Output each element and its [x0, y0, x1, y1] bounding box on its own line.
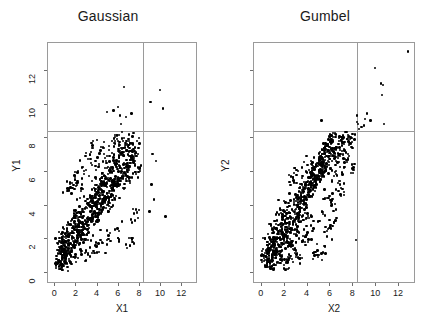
- data-point: [327, 149, 329, 151]
- data-point: [383, 123, 385, 125]
- data-point: [303, 161, 305, 163]
- data-point: [298, 237, 300, 239]
- data-point: [326, 235, 328, 237]
- data-point: [96, 221, 98, 223]
- data-point: [134, 219, 136, 221]
- data-point: [329, 168, 331, 170]
- data-point: [275, 252, 277, 254]
- data-point: [321, 210, 323, 212]
- data-point: [105, 207, 107, 209]
- data-point: [130, 112, 132, 114]
- data-point: [94, 215, 96, 217]
- data-point: [110, 206, 112, 208]
- data-point: [266, 252, 268, 254]
- data-point: [381, 94, 383, 96]
- data-point: [123, 187, 125, 189]
- data-point: [79, 197, 81, 199]
- data-point: [382, 84, 384, 86]
- data-point: [299, 254, 301, 256]
- data-point: [323, 231, 325, 233]
- data-point: [97, 186, 99, 188]
- data-point: [79, 159, 81, 161]
- data-point: [94, 160, 96, 162]
- data-point: [70, 192, 72, 194]
- data-point: [125, 180, 127, 182]
- data-point: [118, 238, 120, 240]
- data-point: [324, 214, 326, 216]
- data-point: [299, 207, 301, 209]
- data-point: [108, 149, 110, 151]
- data-point: [292, 179, 294, 181]
- data-point: [109, 202, 111, 204]
- data-point: [332, 150, 334, 152]
- data-point: [331, 147, 333, 149]
- x-tick-label: 2: [274, 288, 294, 298]
- data-point: [91, 164, 93, 166]
- x-tick-label: 0: [44, 288, 64, 298]
- data-point: [313, 254, 315, 256]
- data-point: [106, 243, 108, 245]
- data-point: [338, 161, 340, 163]
- data-point: [102, 207, 104, 209]
- data-point: [335, 208, 337, 210]
- data-point: [113, 145, 115, 147]
- data-point: [103, 141, 105, 143]
- data-point: [326, 230, 328, 232]
- data-point: [139, 167, 141, 169]
- data-point: [78, 242, 80, 244]
- data-point: [121, 151, 123, 153]
- panel-gumbel: Gumbel Y2 024681012024681012 X2: [217, 0, 433, 328]
- data-point: [407, 50, 409, 52]
- data-point: [67, 270, 69, 272]
- data-point: [297, 170, 299, 172]
- data-point: [137, 171, 139, 173]
- data-point: [310, 214, 312, 216]
- data-point: [102, 198, 104, 200]
- data-point: [270, 224, 272, 226]
- data-point: [337, 157, 339, 159]
- data-point: [304, 241, 306, 243]
- data-point: [310, 175, 312, 177]
- data-point: [333, 157, 335, 159]
- data-point: [102, 190, 104, 192]
- data-point: [82, 211, 84, 213]
- data-point: [306, 164, 308, 166]
- data-point: [337, 190, 339, 192]
- data-point: [272, 231, 274, 233]
- data-point: [313, 156, 315, 158]
- data-point: [321, 148, 323, 150]
- data-point: [112, 109, 114, 111]
- x-tick-mark: [75, 283, 76, 286]
- data-point: [366, 112, 368, 114]
- x-axis-label-left: X1: [47, 303, 197, 314]
- data-point: [327, 172, 329, 174]
- data-point: [89, 158, 91, 160]
- data-point: [84, 207, 86, 209]
- data-point: [98, 163, 100, 165]
- data-point: [81, 177, 83, 179]
- data-point: [95, 203, 97, 205]
- data-point: [121, 220, 123, 222]
- data-point: [108, 155, 110, 157]
- data-point: [294, 228, 296, 230]
- data-point: [302, 214, 304, 216]
- data-point: [276, 211, 278, 213]
- data-point: [85, 259, 87, 261]
- data-point: [311, 172, 313, 174]
- data-point: [86, 233, 88, 235]
- data-point: [80, 250, 82, 252]
- data-point: [334, 164, 336, 166]
- x-tick-label: 8: [342, 288, 362, 298]
- data-point: [75, 185, 77, 187]
- data-point: [295, 208, 297, 210]
- data-point: [275, 256, 277, 258]
- data-point: [80, 187, 82, 189]
- data-point: [356, 114, 358, 116]
- data-point: [321, 259, 323, 261]
- data-point: [82, 241, 84, 243]
- data-point: [98, 208, 100, 210]
- data-point: [312, 193, 314, 195]
- data-point: [62, 265, 64, 267]
- data-point: [64, 261, 66, 263]
- x-tick-mark: [398, 283, 399, 286]
